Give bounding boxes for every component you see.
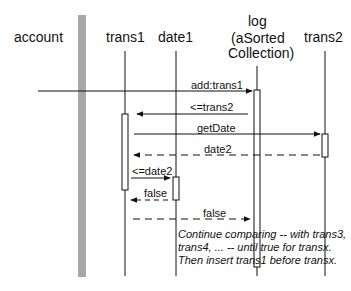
sequence-diagram: account trans1 date1 log (aSorted Collec… — [0, 0, 351, 291]
note-line-2: trans4, ... -- until true for transx. — [178, 241, 331, 254]
note-line-3: Then insert trans1 before transx. — [178, 254, 337, 267]
trans1-activation — [122, 114, 128, 190]
message-label-false-date1: false — [144, 188, 167, 199]
message-label-le-date2: <=date2 — [132, 166, 172, 177]
message-label-le-trans2: <=trans2 — [190, 102, 233, 113]
note-line-1: Continue comparing -- with trans3, — [178, 228, 346, 241]
message-label-add-trans1: add:trans1 — [191, 80, 243, 91]
date1-activation — [173, 177, 179, 200]
message-label-false-log: false — [203, 208, 226, 219]
message-label-date2: date2 — [204, 144, 232, 155]
trans2-activation — [322, 134, 328, 157]
account-lifeline-bar — [78, 15, 86, 277]
message-label-getdate: getDate — [197, 123, 236, 134]
